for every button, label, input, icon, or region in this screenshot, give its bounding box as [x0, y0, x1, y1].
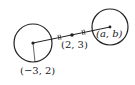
midpoint-label: (2, 3) — [61, 39, 88, 50]
midpoint-dot — [70, 33, 74, 37]
label-leader — [33, 43, 35, 62]
left-center-label: (−3, 2) — [20, 65, 55, 76]
left-center-dot — [31, 41, 34, 44]
right-center-label: (a, b) — [96, 28, 123, 39]
diagram-canvas: (−3, 2) (2, 3) (a, b) — [0, 0, 135, 85]
